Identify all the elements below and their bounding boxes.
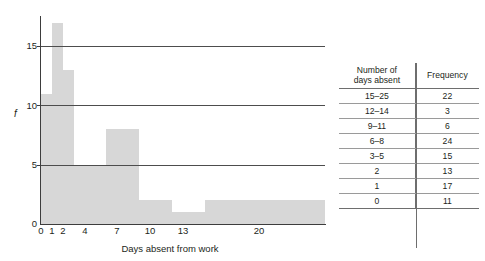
plot-area (41, 17, 325, 224)
x-tick-label-1: 1 (49, 226, 54, 236)
frequency-table: Number of days absent Frequency 15–25 22… (339, 63, 479, 209)
histogram-chart: f 15 10 5 0 0 1 2 4 7 (0, 0, 340, 261)
x-tick-label-10: 10 (145, 226, 156, 236)
bar-1 (52, 23, 63, 224)
bar-0 (41, 94, 52, 224)
cell-interval: 2 (339, 164, 415, 179)
table-header-row: Number of days absent Frequency (339, 63, 479, 89)
cell-frequency: 6 (415, 119, 479, 134)
gridline-10 (41, 105, 325, 106)
bar-2 (63, 70, 74, 224)
cell-interval: 0 (339, 194, 415, 209)
gridline-5 (41, 165, 325, 166)
gridline-15 (41, 46, 325, 47)
frequency-table-container: Number of days absent Frequency 15–25 22… (339, 63, 479, 248)
table-header-frequency: Frequency (415, 63, 479, 89)
bar-15-25 (205, 200, 325, 224)
x-tick-label-4: 4 (82, 226, 87, 236)
cell-frequency: 24 (415, 134, 479, 149)
table-header-days-absent-line2: days absent (341, 75, 413, 85)
table-row: 2 13 (339, 164, 479, 179)
y-tick-label-0: 0 (32, 219, 37, 229)
bar-3-5 (74, 165, 106, 224)
table-header-days-absent-line1: Number of (341, 65, 413, 75)
cell-interval: 9–11 (339, 119, 415, 134)
table-row: 15–25 22 (339, 89, 479, 104)
table-row: 6–8 24 (339, 134, 479, 149)
table-row: 9–11 6 (339, 119, 479, 134)
cell-interval: 15–25 (339, 89, 415, 104)
frequency-table-body: 15–25 22 12–14 3 9–11 6 6–8 24 3–5 15 (339, 89, 479, 209)
x-tick-label-2: 2 (60, 226, 65, 236)
bar-12-14 (172, 212, 205, 224)
bar-6-8 (106, 129, 139, 224)
x-axis-title: Days absent from work (0, 243, 340, 254)
cell-interval: 1 (339, 179, 415, 194)
cell-frequency: 15 (415, 149, 479, 164)
x-tick-label-7: 7 (114, 226, 119, 236)
cell-frequency: 17 (415, 179, 479, 194)
cell-interval: 12–14 (339, 104, 415, 119)
figure-histogram-and-table: f 15 10 5 0 0 1 2 4 7 (0, 0, 485, 261)
bar-9-11 (139, 200, 172, 224)
x-tick-label-20: 20 (254, 226, 265, 236)
y-tick-label-15: 15 (26, 41, 37, 51)
table-row: 1 17 (339, 179, 479, 194)
y-tick-label-10: 10 (26, 101, 37, 111)
cell-frequency: 3 (415, 104, 479, 119)
cell-interval: 3–5 (339, 149, 415, 164)
cell-frequency: 13 (415, 164, 479, 179)
y-axis-tick-labels: 15 10 5 0 (0, 0, 37, 261)
table-row: 12–14 3 (339, 104, 479, 119)
cell-frequency: 22 (415, 89, 479, 104)
x-tick-label-13: 13 (178, 226, 189, 236)
table-header-days-absent: Number of days absent (339, 63, 415, 89)
cell-interval: 6–8 (339, 134, 415, 149)
cell-frequency: 11 (415, 194, 479, 209)
x-tick-label-0: 0 (38, 226, 43, 236)
table-column-divider-extension (416, 63, 417, 248)
table-row: 0 11 (339, 194, 479, 209)
table-row: 3–5 15 (339, 149, 479, 164)
